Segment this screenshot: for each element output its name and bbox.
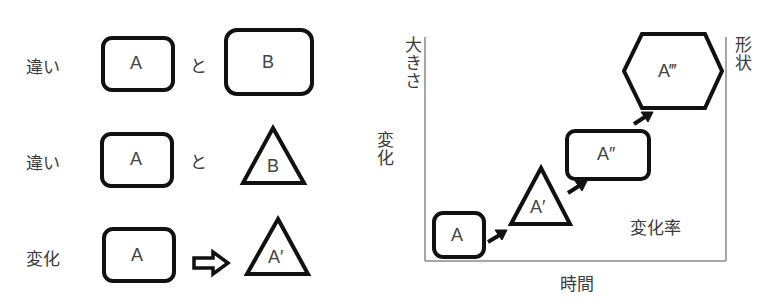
y-axis-label-left: 変化 <box>372 131 397 167</box>
inner-label-rate: 変化率 <box>630 214 681 239</box>
x-axis-label: 時間 <box>560 270 594 295</box>
row1-label: 違い <box>26 53 60 78</box>
row2-shape1-text: A <box>130 149 142 170</box>
step-a-text: A <box>451 225 463 246</box>
arrow-icon <box>568 181 587 193</box>
arrow-icon <box>488 230 507 242</box>
row1-shape1-text: A <box>130 53 142 74</box>
y-axis-label-right: 形状 <box>730 36 755 72</box>
arrow-icon <box>634 112 653 124</box>
row2-connector: と <box>190 148 207 173</box>
row1-connector: と <box>190 52 207 77</box>
row2-shape2-text: B <box>267 156 279 177</box>
step-a-prime-text: A′ <box>530 197 545 218</box>
double-arrow-icon <box>194 252 228 274</box>
row1-shape2-text: B <box>262 52 274 73</box>
row3-shape2-text: A′ <box>268 247 283 268</box>
row3-shape1-text: A <box>131 245 143 266</box>
row2-label: 違い <box>26 149 60 174</box>
y-axis-label-top: 大きさ <box>400 36 425 90</box>
step-a-triple-prime-text: A‴ <box>658 61 676 82</box>
row3-label: 変化 <box>26 245 60 270</box>
step-a-double-prime-text: A″ <box>597 144 615 165</box>
